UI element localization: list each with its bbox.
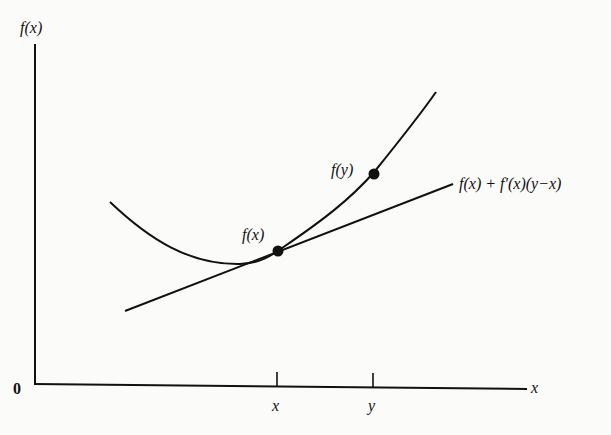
- diagram-canvas: [0, 0, 611, 435]
- x-axis: [34, 384, 527, 389]
- tick-label-y: y: [368, 398, 375, 414]
- point-label-fy: f(y): [331, 162, 353, 178]
- origin-label: 0: [13, 381, 21, 397]
- tangent-line-label: f(x) + f′(x)(y−x): [459, 176, 561, 192]
- x-axis-label: x: [531, 380, 538, 396]
- point-label-fx: f(x): [242, 227, 264, 243]
- point-fy: [369, 169, 380, 180]
- tick-label-x: x: [272, 398, 279, 414]
- point-fx: [273, 246, 284, 257]
- y-axis-label: f(x): [20, 20, 42, 36]
- tangent-line: [125, 184, 453, 311]
- convex-curve: [110, 92, 436, 264]
